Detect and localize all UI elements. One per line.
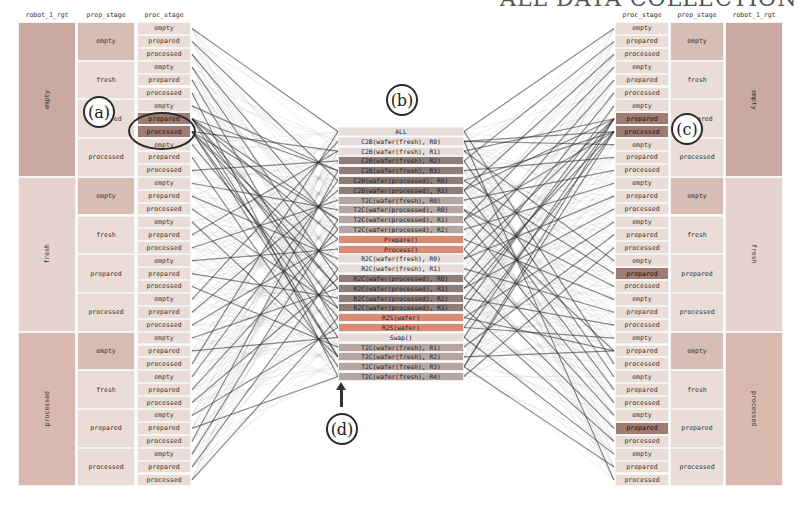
action-item[interactable]: R2C(wafer(fresh), R0) (338, 254, 464, 263)
action-item[interactable]: T2C(wafer(fresh), R4) (338, 372, 464, 381)
callout-a: (a) (83, 96, 115, 128)
action-item[interactable]: R2S(wafer) (338, 323, 464, 332)
action-item[interactable]: C2B(wafer(fresh), R3) (338, 166, 464, 175)
action-item[interactable]: T2C(wafer(processed), R0) (338, 205, 464, 214)
action-item[interactable]: R2C(wafer(processed), R1) (338, 284, 464, 293)
action-item[interactable]: R2C(wafer(processed), R2) (338, 294, 464, 303)
action-item[interactable]: R2C(wafer(processed), R0) (338, 274, 464, 283)
action-item[interactable]: ALL (338, 127, 464, 136)
action-item[interactable]: C2B(wafer(fresh), R0) (338, 137, 464, 146)
action-item[interactable]: R2C(wafer(fresh), R1) (338, 264, 464, 273)
callout-c: (c) (671, 113, 703, 145)
callout-d: (d) (326, 413, 358, 445)
action-item[interactable]: C2B(wafer(fresh), R1) (338, 147, 464, 156)
action-item[interactable]: C2B(wafer(processed), R1) (338, 186, 464, 195)
callout-b: (b) (386, 84, 418, 116)
action-item[interactable]: Process() (338, 245, 464, 254)
action-item[interactable]: R2C(wafer(processed), R3) (338, 303, 464, 312)
action-item[interactable]: T2C(wafer(fresh), R1) (338, 343, 464, 352)
action-item[interactable]: R2S(wafer) (338, 313, 464, 322)
action-item[interactable]: C2B(wafer(processed), R0) (338, 176, 464, 185)
action-item[interactable]: Swap() (338, 333, 464, 342)
action-item[interactable]: C2B(wafer(fresh), R2) (338, 156, 464, 165)
action-item[interactable]: T2C(wafer(fresh), R3) (338, 362, 464, 371)
action-item[interactable]: Prepare() (338, 235, 464, 244)
action-item[interactable]: T2C(wafer(processed), R2) (338, 225, 464, 234)
action-item[interactable]: T2C(wafer(processed), R1) (338, 215, 464, 224)
action-item[interactable]: T2C(wafer(fresh), R2) (338, 352, 464, 361)
highlight-ellipse-a (128, 112, 196, 150)
arrow-d-head-icon (336, 382, 346, 390)
action-item[interactable]: T2C(wafer(fresh), R0) (338, 196, 464, 205)
